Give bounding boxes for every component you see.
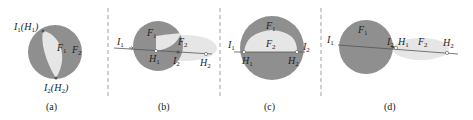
figure-canvas: I1(H1) I2(H2) F1 F2 (a) I1 F1 F2 H1 I2 H… — [0, 0, 473, 120]
panel-d: I1 F1 I2 H1 F2 H2 (d) — [326, 20, 458, 113]
panel-c: I1 I2 F1 F2 H1 H2 (c) — [227, 16, 310, 113]
point-i2 — [55, 77, 58, 80]
caption-b: (b) — [158, 101, 170, 113]
point-h2 — [445, 51, 448, 54]
label-i1: I1 — [326, 34, 334, 47]
caption-d: (d) — [384, 101, 396, 113]
point-h1 — [242, 50, 245, 53]
point-h2 — [204, 52, 207, 55]
label-i2-h2: I2(H2) — [43, 82, 69, 95]
panel-a: I1(H1) I2(H2) F1 F2 (a) — [13, 21, 82, 113]
label-i1: I1 — [116, 36, 124, 49]
label-i1: I1 — [227, 39, 235, 52]
label-i1-h1: I1(H1) — [13, 21, 39, 34]
caption-c: (c) — [264, 101, 275, 113]
point-i2 — [176, 50, 179, 53]
point-i1 — [42, 30, 45, 33]
panel-b: I1 F1 F2 H1 I2 H2 (b) — [114, 21, 217, 113]
caption-a: (a) — [46, 101, 57, 113]
point-h2 — [295, 50, 298, 53]
label-h2: H2 — [199, 57, 211, 70]
